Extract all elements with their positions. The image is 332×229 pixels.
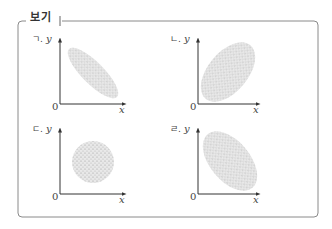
- plot-b-y-label: y: [184, 33, 190, 44]
- plot-d: [192, 121, 268, 200]
- plot-a: [60, 40, 125, 105]
- plot-a-origin: 0: [52, 101, 58, 113]
- plot-a-y-label: y: [46, 33, 52, 44]
- scatter-cloud: [72, 141, 114, 183]
- plot-c-letter: ㄷ.: [32, 124, 43, 134]
- plot-a-letter: ㄱ.: [32, 34, 43, 44]
- plot-b-letter: ㄴ.: [170, 34, 181, 44]
- plot-d-y-label: y: [184, 123, 190, 134]
- plot-c-label: ㄷ. y: [32, 123, 52, 135]
- plot-d-label: ㄹ. y: [170, 123, 190, 135]
- box-title: 보기: [27, 10, 54, 26]
- plot-d-letter: ㄹ.: [170, 124, 181, 134]
- plot-b: [190, 32, 266, 111]
- plot-c: [60, 130, 124, 194]
- plot-a-x-label: x: [119, 104, 125, 116]
- plot-c-origin: 0: [52, 191, 58, 203]
- plot-a-label: ㄱ. y: [32, 33, 52, 45]
- plot-c-y-label: y: [46, 123, 52, 134]
- plot-c-x-label: x: [119, 194, 125, 206]
- scatter-cloud: [190, 32, 266, 111]
- plot-d-x-label: x: [253, 194, 259, 206]
- plot-b-x-label: x: [253, 104, 259, 116]
- scatter-cloud: [61, 41, 125, 105]
- scatter-cloud: [192, 121, 268, 200]
- plot-b-origin: 0: [190, 101, 196, 113]
- plot-d-origin: 0: [190, 191, 196, 203]
- plot-b-label: ㄴ. y: [170, 33, 190, 45]
- example-box: [18, 16, 318, 217]
